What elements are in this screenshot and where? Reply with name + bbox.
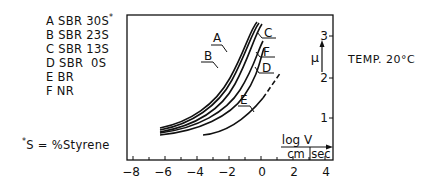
y-axis-title: μ (311, 50, 319, 65)
label-b: B (204, 49, 212, 63)
curve-b (160, 23, 259, 130)
svg-text:2: 2 (320, 71, 328, 85)
svg-text:−8: −8 (122, 165, 140, 179)
x-unit-sec: sec (311, 147, 330, 161)
svg-text:0: 0 (258, 165, 266, 179)
svg-text:1: 1 (320, 111, 328, 125)
svg-text:2: 2 (290, 165, 298, 179)
x-tick-labels: −8 −6 −4 −2 0 2 4 (122, 165, 330, 179)
curve-labels: A B C F D E (201, 26, 276, 112)
svg-text:−6: −6 (154, 165, 172, 179)
svg-text:3: 3 (320, 29, 328, 43)
label-e: E (240, 93, 248, 107)
svg-text:4: 4 (322, 165, 330, 179)
friction-chart: −8 −6 −4 −2 0 2 4 3 2 1 μ log V cm sec A (0, 0, 448, 187)
label-a: A (213, 31, 222, 45)
svg-text:−4: −4 (186, 165, 204, 179)
x-unit-cm: cm (287, 147, 305, 161)
x-axis-title: log V (282, 133, 313, 147)
svg-text:−2: −2 (218, 165, 236, 179)
curve-e-dashed (263, 72, 281, 98)
curve-a (160, 22, 257, 128)
